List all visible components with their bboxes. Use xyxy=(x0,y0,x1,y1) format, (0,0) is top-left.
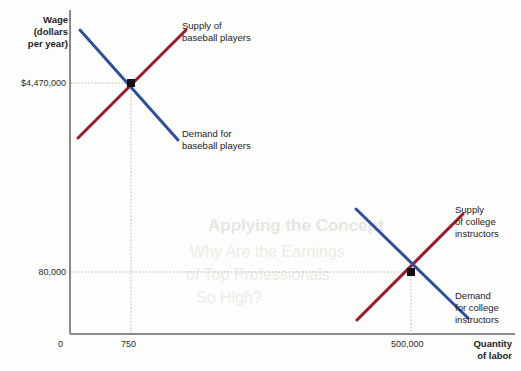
y-axis-title-line-1: Wage xyxy=(0,14,68,26)
y-tick-label-80000: 80,000 xyxy=(0,267,66,279)
supply-demand-figure: Applying the Concept Why Are the Earning… xyxy=(0,0,521,371)
demand-baseball-label-line-1: Demand for xyxy=(182,128,232,140)
x-tick-label-500000: 500,000 xyxy=(391,339,424,351)
supply-curve-college xyxy=(357,214,463,320)
supply-college-label-line-1: Supply xyxy=(455,204,484,216)
plot-canvas xyxy=(0,0,521,371)
demand-college-label-line-2: for college xyxy=(455,302,499,314)
demand-college-label-line-3: instructors xyxy=(455,314,499,326)
x-tick-label-0: 0 xyxy=(58,339,63,351)
supply-baseball-label-line-1: Supply of xyxy=(182,20,222,32)
x-axis-title-line-2: of labor xyxy=(440,350,512,362)
x-tick-label-750: 750 xyxy=(121,339,136,351)
supply-college-label-line-3: instructors xyxy=(455,228,499,240)
demand-baseball-label-line-2: baseball players xyxy=(182,140,251,152)
y-axis-title-line-3: per year) xyxy=(0,38,68,50)
equilibrium-marker-college xyxy=(407,268,415,276)
y-tick-label-4470000: $4,470,000 xyxy=(0,78,66,90)
demand-college-label-line-1: Demand xyxy=(455,290,491,302)
x-axis-title-line-1: Quantity xyxy=(440,338,512,350)
equilibrium-marker-baseball xyxy=(127,79,135,87)
y-axis-title-line-2: (dollars xyxy=(0,26,68,38)
supply-college-label-line-2: of college xyxy=(455,216,496,228)
supply-baseball-label-line-2: baseball players xyxy=(182,32,251,44)
